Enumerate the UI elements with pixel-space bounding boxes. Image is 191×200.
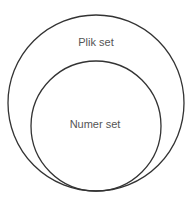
venn-diagram (0, 0, 191, 200)
inner-set-label: Numer set (70, 118, 121, 130)
outer-set-label: Plik set (78, 36, 113, 48)
